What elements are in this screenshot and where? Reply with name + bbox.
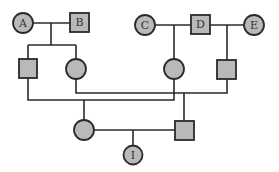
- male-symbol: [19, 59, 37, 78]
- individual-ab-daughter: [66, 59, 86, 79]
- female-symbol: [74, 120, 94, 140]
- individual-i: I: [124, 146, 143, 165]
- individual-label: E: [250, 19, 258, 32]
- individual-ab-son: [19, 59, 37, 78]
- individual-b: B: [70, 13, 89, 32]
- individual-e: E: [244, 15, 264, 35]
- individual-de-son: [217, 60, 236, 79]
- female-symbol: [164, 59, 184, 79]
- individual-label: I: [131, 149, 135, 162]
- mating-line-absion-cddaughter: [28, 78, 174, 100]
- individual-label: C: [141, 19, 149, 32]
- pedigree-diagram: A B C D E I: [0, 0, 279, 172]
- individual-label: A: [18, 17, 28, 30]
- mating-line-abdaughter-deson: [76, 79, 227, 93]
- male-symbol: [175, 121, 194, 140]
- female-symbol: [66, 59, 86, 79]
- connector-lines: [28, 23, 244, 146]
- individual-d: D: [191, 15, 210, 34]
- individual-cd-daughter: [164, 59, 184, 79]
- individual-label: B: [75, 16, 83, 29]
- individual-c: C: [135, 15, 155, 35]
- individual-label: D: [196, 18, 205, 31]
- individual-g3-female: [74, 120, 94, 140]
- individual-a: A: [13, 13, 33, 33]
- male-symbol: [217, 60, 236, 79]
- individual-g3-male: [175, 121, 194, 140]
